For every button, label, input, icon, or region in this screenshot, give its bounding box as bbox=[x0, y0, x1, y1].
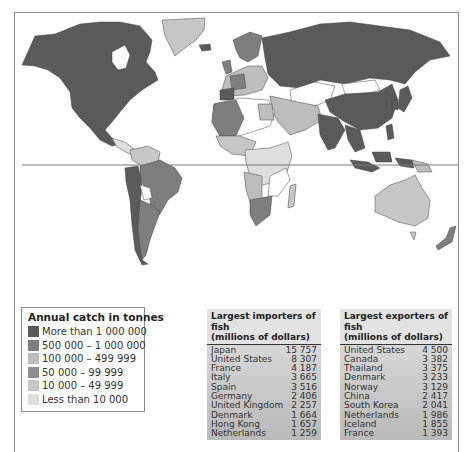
madagascar bbox=[288, 184, 296, 208]
importers-table-body: Japan15 757 United States8 307 France4 1… bbox=[207, 345, 321, 441]
exporters-table: Largest exporters of fish (millions of d… bbox=[340, 309, 452, 440]
new-zealand bbox=[436, 226, 456, 250]
legend-item: More than 1 000 000 bbox=[28, 325, 139, 339]
table-row: France1 393 bbox=[344, 429, 448, 438]
exporters-subtitle: (millions of dollars) bbox=[344, 332, 448, 343]
legend-label: 50 000 – 99 999 bbox=[42, 367, 123, 378]
tasmania bbox=[410, 232, 416, 240]
legend-swatch bbox=[28, 340, 39, 351]
legend-swatch bbox=[28, 394, 39, 405]
importers-title: Largest importers of fish bbox=[211, 311, 317, 332]
legend-item: 10 000 – 49 999 bbox=[28, 379, 139, 393]
legend-swatch bbox=[28, 353, 39, 364]
legend-item: 50 000 – 99 999 bbox=[28, 366, 139, 380]
argentina bbox=[138, 200, 160, 260]
legend-item: 100 000 – 499 999 bbox=[28, 352, 139, 366]
papua bbox=[412, 160, 432, 172]
iceland bbox=[199, 44, 211, 51]
indonesia bbox=[350, 152, 414, 172]
korea bbox=[392, 100, 398, 110]
importers-table-header: Largest importers of fish (millions of d… bbox=[207, 309, 321, 345]
legend-label: 10 000 – 49 999 bbox=[42, 380, 123, 391]
legend-item: 500 000 – 1 000 000 bbox=[28, 339, 139, 353]
scandinavia bbox=[233, 32, 262, 62]
importers-table: Largest importers of fish (millions of d… bbox=[207, 309, 321, 440]
legend-label: 500 000 – 1 000 000 bbox=[42, 340, 146, 351]
legend-swatch bbox=[28, 380, 39, 391]
japan bbox=[398, 86, 412, 112]
legend-item: Less than 10 000 bbox=[28, 393, 139, 407]
philippines bbox=[386, 124, 394, 140]
exporters-table-header: Largest exporters of fish (millions of d… bbox=[340, 309, 452, 345]
legend-label: 100 000 – 499 999 bbox=[42, 353, 136, 364]
legend-label: Less than 10 000 bbox=[42, 394, 128, 405]
map-legend: Annual catch in tonnes More than 1 000 0… bbox=[21, 307, 145, 412]
legend-label: More than 1 000 000 bbox=[42, 326, 147, 337]
exporters-title: Largest exporters of fish bbox=[344, 311, 448, 332]
russia bbox=[262, 22, 450, 88]
legend-title: Annual catch in tonnes bbox=[28, 311, 139, 324]
legend-swatch bbox=[28, 367, 39, 378]
france bbox=[230, 74, 246, 90]
greenland bbox=[162, 18, 205, 56]
importers-subtitle: (millions of dollars) bbox=[211, 332, 317, 343]
north-america bbox=[22, 22, 158, 146]
australia bbox=[375, 175, 430, 226]
egypt bbox=[258, 104, 274, 120]
uk bbox=[222, 60, 232, 74]
exporters-table-body: United States4 500 Canada3 382 Thailand3… bbox=[340, 345, 452, 441]
spain bbox=[220, 88, 234, 100]
table-row: Netherlands1 259 bbox=[211, 429, 317, 438]
south-africa bbox=[250, 196, 272, 226]
legend-swatch bbox=[28, 326, 39, 337]
angola-namibia bbox=[244, 172, 262, 202]
